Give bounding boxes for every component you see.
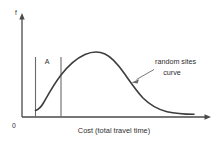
annotation-arrowhead bbox=[132, 79, 140, 83]
origin-label: 0 bbox=[12, 122, 16, 129]
annotation-line-2: curve bbox=[163, 68, 181, 77]
figure-container: f 0 A random sites curve Cost (total tra… bbox=[0, 0, 221, 142]
y-axis-arrowhead bbox=[19, 13, 24, 20]
y-axis-label: f bbox=[15, 9, 17, 16]
annotation-line-1: random sites bbox=[155, 57, 197, 66]
annotation-leader-line bbox=[137, 70, 155, 80]
random-sites-curve-chart: f 0 A random sites curve Cost (total tra… bbox=[0, 0, 221, 142]
band-label-a: A bbox=[45, 58, 50, 65]
x-axis-arrowhead bbox=[205, 114, 212, 119]
x-axis-title: Cost (total travel time) bbox=[78, 126, 150, 135]
